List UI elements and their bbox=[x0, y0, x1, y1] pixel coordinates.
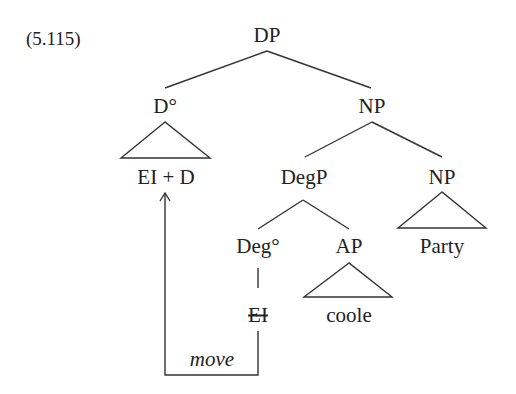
node-degp: DegP bbox=[281, 167, 328, 188]
node-dp: DP bbox=[254, 25, 281, 46]
movement-label: move bbox=[190, 349, 234, 370]
node-ap: AP bbox=[336, 236, 363, 257]
node-ap-content: coole bbox=[326, 305, 371, 326]
node-np2-content: Party bbox=[420, 236, 464, 257]
node-deg-trace: EI bbox=[248, 305, 268, 326]
node-deg-head: Deg° bbox=[236, 236, 279, 257]
node-d-head: D° bbox=[153, 96, 177, 117]
tree-branches bbox=[0, 0, 516, 394]
node-d-content: EI + D bbox=[137, 167, 194, 188]
node-np2: NP bbox=[429, 167, 456, 188]
node-np: NP bbox=[359, 96, 386, 117]
